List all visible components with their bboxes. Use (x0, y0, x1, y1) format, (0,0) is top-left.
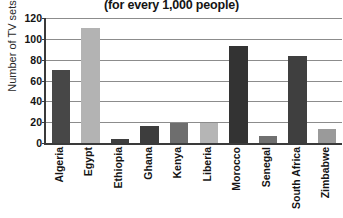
bar[interactable] (111, 139, 129, 143)
bar[interactable] (52, 70, 70, 143)
plot-area (44, 18, 342, 145)
x-axis-label: Zimbabwe (320, 147, 331, 198)
x-label-slot: Algeria (54, 147, 65, 217)
bar[interactable] (318, 129, 336, 143)
tv-sets-bar-chart: (for every 1,000 people) Number of TV se… (0, 0, 343, 218)
x-label-slot: Kenya (172, 147, 183, 217)
y-tick-label: 60 (2, 76, 42, 86)
x-axis-label: Senegal (261, 147, 272, 187)
x-label-slot: Ethiopia (113, 147, 124, 217)
x-axis-label: South Africa (291, 147, 302, 209)
x-axis-label: Morocco (231, 147, 242, 191)
gridline (46, 18, 342, 19)
x-axis-label: Algeria (54, 147, 65, 183)
x-label-slot: Morocco (231, 147, 242, 217)
bar[interactable] (170, 123, 188, 143)
bar[interactable] (140, 126, 158, 143)
x-axis-category-labels: AlgeriaEgyptEthiopiaGhanaKenyaLiberiaMor… (44, 145, 340, 218)
y-tick-label: 120 (2, 13, 42, 23)
y-tick-label: 20 (2, 117, 42, 127)
x-label-slot: Ghana (143, 147, 154, 217)
x-label-slot: South Africa (291, 147, 302, 217)
y-tick-label: 40 (2, 96, 42, 106)
bar[interactable] (288, 56, 306, 144)
y-tick-label: 0 (2, 138, 42, 148)
x-label-slot: Zimbabwe (320, 147, 331, 217)
x-axis-label: Liberia (202, 147, 213, 181)
x-axis-label: Ghana (143, 147, 154, 180)
bar[interactable] (229, 46, 247, 143)
x-label-slot: Senegal (261, 147, 272, 217)
bar[interactable] (81, 28, 99, 143)
x-axis-label: Ethiopia (113, 147, 124, 188)
y-tick-label: 80 (2, 55, 42, 65)
y-axis-tick-labels: 020406080100120 (0, 18, 42, 143)
x-label-slot: Egypt (83, 147, 94, 217)
x-axis-label: Kenya (172, 147, 183, 179)
chart-title: (for every 1,000 people) (0, 0, 343, 12)
y-tick-label: 100 (2, 34, 42, 44)
x-axis-label: Egypt (83, 147, 94, 176)
x-label-slot: Liberia (202, 147, 213, 217)
bar[interactable] (200, 123, 218, 143)
bar[interactable] (259, 136, 277, 143)
